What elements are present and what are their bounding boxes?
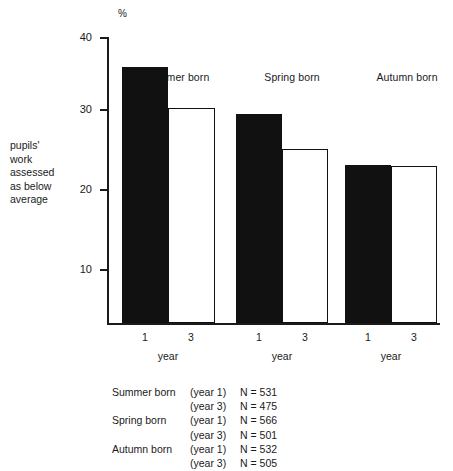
sample-season-0: Summer born [112, 386, 190, 400]
sample-year-3: (year 3) [190, 429, 240, 443]
group-title-spring: Spring born [227, 71, 357, 83]
bar-summer-year1 [122, 67, 168, 323]
sample-n-3: N = 501 [240, 429, 296, 443]
table-row: Summer born (year 1) N = 531 [112, 386, 296, 400]
bar-spring-year3 [282, 149, 328, 323]
y-tick-label-40: 40 [80, 29, 92, 45]
sample-season-1 [112, 400, 190, 414]
sample-year-4: (year 1) [190, 443, 240, 457]
bar-spring-year1 [236, 114, 282, 323]
bar-summer-year3 [168, 108, 215, 323]
y-tick-label-20: 20 [80, 181, 92, 197]
sample-n-2: N = 566 [240, 414, 296, 428]
y-tick-40: 40 [100, 37, 109, 39]
x-tick-spring-3: 3 [293, 331, 317, 343]
sample-n-1: N = 475 [240, 400, 296, 414]
x-tick-autumn-3: 3 [402, 331, 426, 343]
x-tick-spring-1: 1 [247, 331, 271, 343]
y-tick-label-30: 30 [80, 101, 92, 117]
y-axis-title-line-5: average [10, 193, 90, 207]
sample-size-table: Summer born (year 1) N = 531 (year 3) N … [112, 386, 296, 471]
y-axis-title-line-2: work [10, 153, 90, 167]
sample-n-5: N = 505 [240, 457, 296, 471]
x-group-label-summer: year [138, 350, 198, 362]
sample-season-3 [112, 429, 190, 443]
x-group-label-spring: year [252, 350, 312, 362]
sample-year-2: (year 1) [190, 414, 240, 428]
table-row: (year 3) N = 505 [112, 457, 296, 471]
sample-n-4: N = 532 [240, 443, 296, 457]
x-group-label-autumn: year [361, 350, 421, 362]
y-axis-title-line-4: as below [10, 180, 90, 194]
sample-n-0: N = 531 [240, 386, 296, 400]
y-axis-title: pupils' work assessed as below average [10, 139, 90, 207]
y-axis-title-line-3: assessed [10, 166, 90, 180]
x-tick-summer-1: 1 [133, 331, 157, 343]
y-axis-title-line-1: pupils' [10, 139, 90, 153]
y-axis-line [107, 38, 109, 325]
sample-year-0: (year 1) [190, 386, 240, 400]
sample-season-4: Autumn born [112, 443, 190, 457]
y-axis-unit-label: % [118, 8, 127, 19]
y-tick-30: 30 [100, 109, 109, 111]
group-title-autumn: Autumn born [342, 71, 453, 83]
sample-year-5: (year 3) [190, 457, 240, 471]
sample-year-1: (year 3) [190, 400, 240, 414]
sample-season-5 [112, 457, 190, 471]
y-tick-10: 10 [100, 269, 109, 271]
y-tick-20: 20 [100, 189, 109, 191]
bar-autumn-year3 [391, 166, 437, 323]
table-row: Spring born (year 1) N = 566 [112, 414, 296, 428]
bar-autumn-year1 [345, 165, 391, 323]
table-row: (year 3) N = 475 [112, 400, 296, 414]
table-row: (year 3) N = 501 [112, 429, 296, 443]
x-tick-autumn-1: 1 [356, 331, 380, 343]
y-tick-label-10: 10 [80, 261, 92, 277]
x-tick-summer-3: 3 [179, 331, 203, 343]
x-axis-line [107, 323, 440, 325]
chart-plot-area: 40 30 20 10 Summer born Spring born Autu… [107, 38, 440, 325]
sample-season-2: Spring born [112, 414, 190, 428]
table-row: Autumn born (year 1) N = 532 [112, 443, 296, 457]
